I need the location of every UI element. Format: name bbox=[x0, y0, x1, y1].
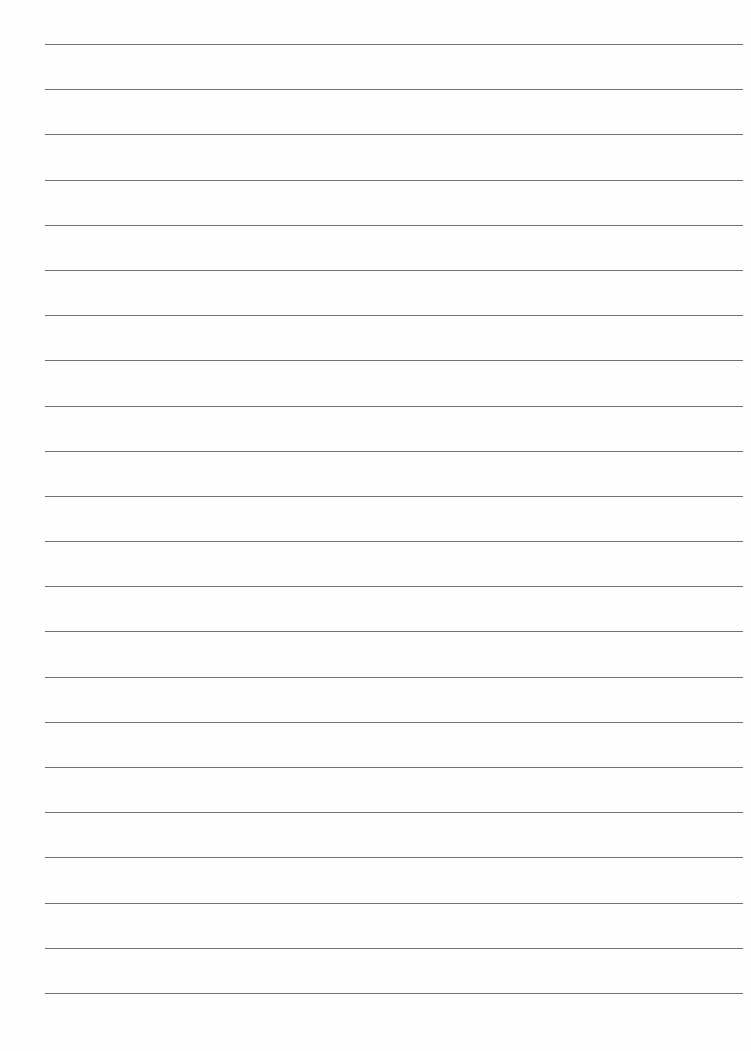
ruled-line bbox=[45, 315, 743, 316]
ruled-line bbox=[45, 993, 743, 994]
ruled-line bbox=[45, 722, 743, 723]
ruled-line bbox=[45, 541, 743, 542]
ruled-line bbox=[45, 406, 743, 407]
ruled-line bbox=[45, 767, 743, 768]
ruled-line bbox=[45, 586, 743, 587]
ruled-line bbox=[45, 677, 743, 678]
ruled-line bbox=[45, 180, 743, 181]
ruled-line bbox=[45, 270, 743, 271]
ruled-line bbox=[45, 451, 743, 452]
ruled-line bbox=[45, 857, 743, 858]
ruled-line bbox=[45, 948, 743, 949]
ruled-line bbox=[45, 360, 743, 361]
ruled-line bbox=[45, 134, 743, 135]
ruled-line bbox=[45, 225, 743, 226]
ruled-line bbox=[45, 631, 743, 632]
ruled-line bbox=[45, 496, 743, 497]
ruled-line bbox=[45, 812, 743, 813]
ruled-line bbox=[45, 903, 743, 904]
ruled-line bbox=[45, 44, 743, 45]
lined-paper-page bbox=[0, 0, 751, 1051]
ruled-line bbox=[45, 89, 743, 90]
